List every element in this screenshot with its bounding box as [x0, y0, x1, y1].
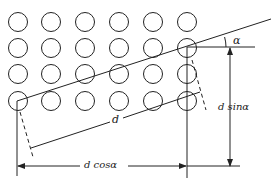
tube-circle	[76, 65, 95, 84]
d-cos-label: d cosα	[84, 160, 117, 170]
tube-circle	[9, 13, 28, 32]
tube-circle	[144, 13, 163, 32]
inclined-line-top	[17, 19, 271, 101]
tube-circle	[144, 65, 163, 84]
tube-circle	[110, 39, 129, 58]
tube-circle	[110, 92, 129, 111]
tube-circle	[9, 65, 28, 84]
tube-circle	[76, 92, 95, 111]
tube-circle	[42, 65, 61, 84]
tube-circle	[42, 13, 61, 32]
d-sin-label: d sinα	[218, 102, 249, 112]
alpha-angle-arc	[225, 37, 226, 47]
dashed-perpendicular-right	[192, 60, 206, 110]
tube-circle	[9, 39, 28, 58]
tube-circle	[178, 13, 197, 32]
alpha-label: α	[233, 35, 240, 46]
tube-circle	[110, 13, 129, 32]
tube-circle	[42, 39, 61, 58]
tube-circle	[42, 92, 61, 111]
dashed-perpendicular-left	[20, 112, 33, 157]
diagram-canvas: α d d sinα d cosα	[0, 0, 273, 182]
d-label: d	[112, 114, 119, 125]
d-dimension-line-a	[31, 122, 110, 148]
tube-circle	[76, 13, 95, 32]
tube-circle	[76, 39, 95, 58]
tube-circle	[110, 65, 129, 84]
geometry-figure	[0, 0, 273, 182]
tube-grid	[9, 13, 197, 111]
